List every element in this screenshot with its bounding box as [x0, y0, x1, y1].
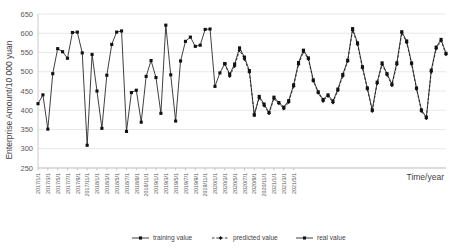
- data-point-marker: [145, 75, 148, 78]
- data-point-marker: [219, 236, 223, 240]
- data-point-marker: [110, 43, 113, 46]
- data-point-marker: [277, 101, 280, 104]
- data-point-marker: [371, 108, 374, 111]
- data-point-marker: [430, 69, 433, 72]
- data-point-marker: [366, 86, 369, 89]
- x-tick-label: 2017/11/1: [84, 173, 90, 197]
- data-point-marker: [326, 93, 329, 96]
- data-point-marker: [228, 73, 231, 76]
- x-tick-label: 2018/1/1: [94, 173, 100, 194]
- data-point-marker: [346, 59, 349, 62]
- y-tick-label: 500: [20, 67, 33, 76]
- data-point-marker: [66, 57, 69, 60]
- gridlines-group: [38, 14, 446, 168]
- x-tick-label: 2018/7/1: [124, 173, 130, 194]
- data-point-marker: [46, 128, 49, 131]
- y-tick-label: 650: [20, 10, 33, 19]
- data-point-marker: [317, 90, 320, 93]
- data-point-marker: [287, 99, 290, 102]
- x-tick-label: 2020/1/1: [212, 173, 218, 194]
- data-point-marker: [336, 88, 339, 91]
- data-point-marker: [130, 91, 133, 94]
- data-point-marker: [307, 56, 310, 59]
- data-point-marker: [223, 62, 226, 65]
- x-tick-label: 2019/3/1: [163, 173, 169, 194]
- data-point-marker: [125, 130, 128, 133]
- data-point-marker: [303, 236, 306, 239]
- x-tick-label: 2020/7/1: [242, 173, 248, 194]
- x-tick-label: 2017/3/1: [45, 173, 51, 194]
- data-point-marker: [297, 61, 300, 64]
- data-point-marker: [76, 31, 79, 34]
- data-point-marker: [184, 40, 187, 43]
- legend-label-1: predicted value: [233, 234, 278, 242]
- x-tick-label: 2018/11/1: [143, 173, 149, 197]
- data-point-marker: [361, 65, 364, 68]
- x-tick-label: 2018/9/1: [134, 173, 140, 194]
- data-point-marker: [71, 31, 74, 34]
- y-tick-label: 450: [20, 87, 33, 96]
- series-real-value: [223, 27, 447, 119]
- legend-label-2: real value: [317, 234, 346, 241]
- data-point-marker: [150, 59, 153, 62]
- data-point-marker: [233, 63, 236, 66]
- y-tick-label: 300: [20, 144, 33, 153]
- data-point-marker: [435, 46, 438, 49]
- series-line: [38, 25, 225, 145]
- data-point-marker: [179, 59, 182, 62]
- data-point-marker: [267, 111, 270, 114]
- data-point-marker: [263, 103, 266, 106]
- x-tick-label: 2017/7/1: [65, 173, 71, 194]
- x-tick-label: 2021/5/1: [291, 173, 297, 194]
- y-tick-label: 400: [20, 106, 33, 115]
- data-point-marker: [356, 41, 359, 44]
- series-line: [225, 30, 446, 118]
- data-point-marker: [385, 72, 388, 75]
- data-point-marker: [199, 44, 202, 47]
- series-training-value: [36, 24, 226, 147]
- data-point-marker: [105, 74, 108, 77]
- data-point-marker: [95, 89, 98, 92]
- data-point-marker: [169, 73, 172, 76]
- x-tick-label: 2017/9/1: [75, 173, 81, 194]
- data-point-marker: [194, 45, 197, 48]
- data-point-marker: [376, 81, 379, 84]
- y-tick-label: 550: [20, 48, 33, 57]
- data-point-marker: [405, 39, 408, 42]
- data-point-marker: [189, 36, 192, 39]
- x-tick-label: 2017/1/1: [35, 173, 41, 194]
- data-point-marker: [213, 85, 216, 88]
- x-tick-label: 2020/5/1: [232, 173, 238, 194]
- data-point-marker: [253, 114, 256, 117]
- data-point-marker: [302, 49, 305, 52]
- x-axis-title: Time/year: [407, 172, 445, 182]
- x-tick-label: 2020/11/1: [261, 173, 267, 197]
- data-point-marker: [61, 50, 64, 53]
- series-line: [225, 29, 446, 118]
- data-point-marker: [415, 86, 418, 89]
- data-point-marker: [292, 83, 295, 86]
- y-tick-label: 350: [20, 125, 33, 134]
- data-point-marker: [248, 69, 251, 72]
- x-tick-label: 2017/5/1: [55, 173, 61, 194]
- x-tick-label: 2019/11/1: [202, 173, 208, 197]
- x-tick-label: 2019/1/1: [153, 173, 159, 194]
- data-point-marker: [135, 89, 138, 92]
- x-tick-label: 2020/9/1: [251, 173, 257, 194]
- data-point-marker: [154, 76, 157, 79]
- data-point-marker: [322, 98, 325, 101]
- data-point-marker: [51, 72, 54, 75]
- data-point-marker: [312, 78, 315, 81]
- data-point-marker: [351, 27, 354, 30]
- data-point-marker: [204, 28, 207, 31]
- x-tick-label: 2020/3/1: [222, 173, 228, 194]
- data-point-marker: [341, 73, 344, 76]
- data-point-marker: [258, 95, 261, 98]
- data-point-marker: [444, 52, 447, 55]
- legend-label-0: training value: [153, 234, 193, 242]
- data-point-marker: [86, 144, 89, 147]
- data-point-marker: [425, 116, 428, 119]
- data-point-marker: [440, 38, 443, 41]
- data-point-marker: [208, 27, 211, 30]
- data-point-marker: [41, 93, 44, 96]
